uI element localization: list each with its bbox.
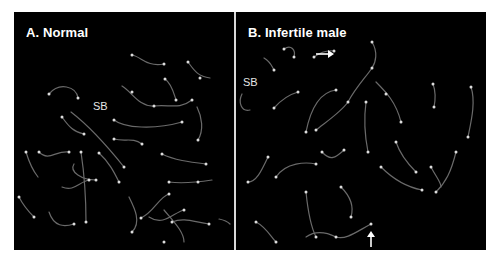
chromosome-spread-a — [14, 12, 234, 250]
panel-infertile-male: B. Infertile male SB — [236, 12, 486, 250]
arrow-up-icon — [367, 231, 375, 247]
chromosome-spread-b — [236, 12, 486, 250]
arrow-right-icon — [316, 50, 334, 58]
panel-normal: A. Normal SB — [14, 12, 234, 250]
